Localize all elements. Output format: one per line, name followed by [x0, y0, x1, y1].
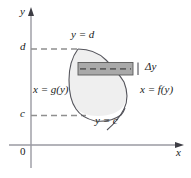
region-between-curves-figure: y x d c 0 y = d y = c x = g(y) x = f(y) …: [0, 0, 191, 178]
bottom-boundary-label: y = c: [95, 115, 118, 126]
y-axis-arrowhead: [28, 7, 34, 16]
y-tick-label-d: d: [20, 41, 26, 52]
shaded-region: [69, 49, 127, 116]
delta-y-label: Δy: [145, 61, 156, 72]
representative-strip: [78, 63, 133, 76]
origin-label: 0: [20, 146, 26, 157]
left-curve-label: x = g(y): [33, 84, 69, 95]
right-curve-label: x = f(y): [140, 84, 173, 95]
y-axis-label: y: [20, 6, 25, 17]
top-boundary-label: y = d: [71, 29, 94, 40]
y-tick-label-c: c: [20, 108, 25, 119]
x-axis-label: x: [176, 147, 181, 158]
